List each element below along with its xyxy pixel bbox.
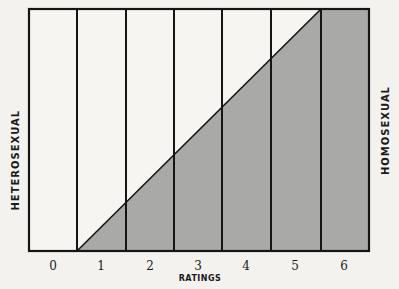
heterosexual-label: HETEROSEXUAL (10, 121, 21, 211)
tick-0: 0 (43, 259, 63, 273)
tick-5: 5 (285, 259, 305, 273)
x-axis-title: RATINGS (170, 274, 230, 283)
homosexual-label: HOMOSEXUAL (380, 86, 391, 176)
tick-3: 3 (188, 259, 208, 273)
kinsey-scale-figure: HETEROSEXUAL HOMOSEXUAL 0 1 2 3 4 5 6 RA… (0, 0, 399, 289)
rating-scale-diagram (0, 0, 399, 289)
tick-1: 1 (91, 259, 111, 273)
tick-2: 2 (140, 259, 160, 273)
tick-6: 6 (334, 259, 354, 273)
tick-4: 4 (236, 259, 256, 273)
